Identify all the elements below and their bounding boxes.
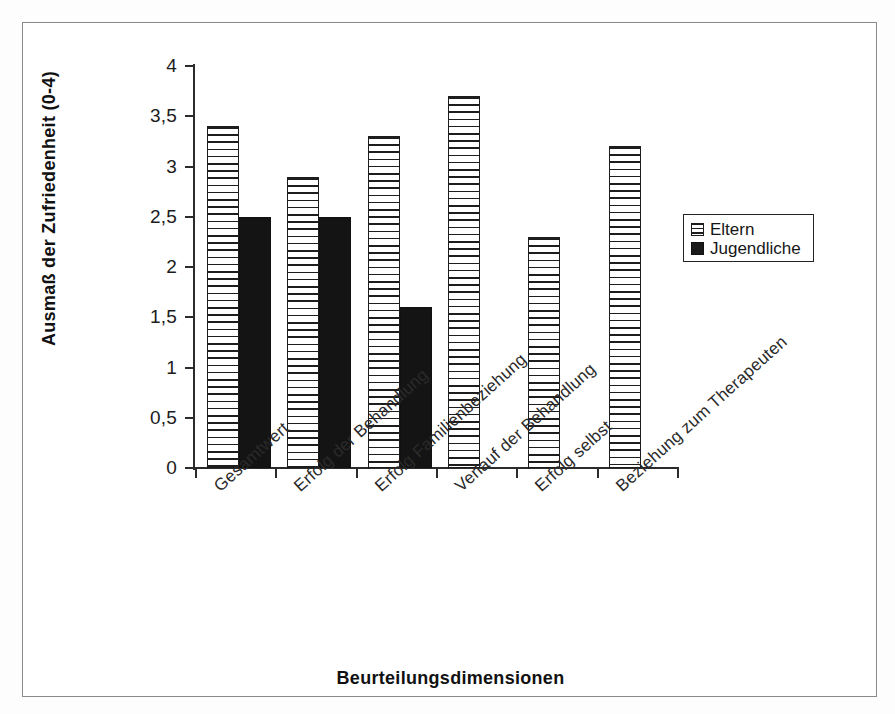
x-axis-tick (356, 469, 358, 478)
bar-jugendliche-1[interactable] (319, 217, 351, 468)
y-axis-tick-label: 4 (119, 56, 177, 75)
bar-jugendliche-2[interactable] (400, 307, 432, 468)
figure-root: Ausmaß der Zufriedenheit (0-4) 43,532,52… (0, 0, 895, 714)
bar-jugendliche-0[interactable] (239, 217, 271, 468)
y-axis-tick-labels: 43,532,521,510,50 (119, 23, 177, 523)
x-axis-tick (516, 469, 518, 478)
y-axis-tick (185, 216, 194, 218)
y-axis-tick (185, 115, 194, 117)
x-axis-tick (436, 469, 438, 478)
legend-label-eltern: Eltern (710, 221, 754, 238)
bar-eltern-5[interactable] (609, 146, 641, 468)
y-axis-tick-label: 0,5 (119, 408, 177, 427)
legend-entry-eltern[interactable]: Eltern (691, 220, 806, 238)
y-axis-tick-label: 3,5 (119, 106, 177, 125)
bar-eltern-1[interactable] (287, 177, 319, 468)
y-axis-tick-label: 2 (119, 257, 177, 276)
y-axis-title: Ausmaß der Zufriedenheit (0-4) (39, 0, 60, 439)
y-axis-tick (185, 316, 194, 318)
x-axis-tick (275, 469, 277, 478)
bar-eltern-0[interactable] (207, 126, 239, 468)
black-swatch-icon (691, 242, 704, 255)
y-axis-tick-label: 1,5 (119, 307, 177, 326)
plot-area (195, 66, 677, 468)
x-axis-tick (597, 469, 599, 478)
x-axis-tick (195, 469, 197, 478)
y-axis-tick (185, 166, 194, 168)
x-axis-title: Beurteilungsdimensionen (23, 668, 878, 689)
striped-swatch-icon (691, 223, 704, 236)
chart-legend: ElternJugendliche (683, 214, 814, 262)
figure-border-frame: Ausmaß der Zufriedenheit (0-4) 43,532,52… (22, 22, 877, 697)
y-axis-tick (185, 367, 194, 369)
y-axis-tick (185, 266, 194, 268)
y-axis-tick-label: 2,5 (119, 207, 177, 226)
y-axis-tick (185, 65, 194, 67)
y-axis-tick (185, 467, 194, 469)
legend-label-jugendliche: Jugendliche (710, 240, 801, 257)
x-axis-tick (677, 469, 679, 478)
bar-eltern-2[interactable] (368, 136, 400, 468)
y-axis-tick (185, 417, 194, 419)
legend-entry-jugendliche[interactable]: Jugendliche (691, 239, 806, 257)
y-axis-tick-label: 1 (119, 358, 177, 377)
y-axis-tick-label: 3 (119, 157, 177, 176)
y-axis-tick-label: 0 (119, 458, 177, 477)
bar-eltern-3[interactable] (448, 96, 480, 468)
bar-eltern-4[interactable] (528, 237, 560, 468)
